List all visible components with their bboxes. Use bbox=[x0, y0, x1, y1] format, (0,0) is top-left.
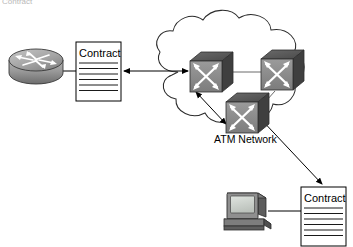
atm-switch-1[interactable] bbox=[190, 52, 233, 92]
clipped-caption-text: Contract bbox=[2, 0, 33, 6]
desktop-computer-icon[interactable] bbox=[224, 193, 271, 230]
contract-document-right[interactable]: Contract bbox=[301, 187, 346, 246]
link-switch3-to-contract-right bbox=[258, 116, 322, 184]
atm-switch-2[interactable] bbox=[261, 50, 304, 90]
contract-right-title: Contract bbox=[304, 192, 346, 204]
router-icon[interactable] bbox=[9, 49, 63, 84]
diagram-svg: Contract ATM Network bbox=[0, 0, 353, 247]
atm-switch-3[interactable] bbox=[226, 93, 269, 133]
atm-network-label: ATM Network bbox=[214, 133, 278, 145]
contract-document-left[interactable]: Contract bbox=[76, 42, 121, 101]
contract-left-title: Contract bbox=[79, 47, 121, 59]
network-diagram-canvas: Contract ATM Network bbox=[0, 0, 353, 247]
